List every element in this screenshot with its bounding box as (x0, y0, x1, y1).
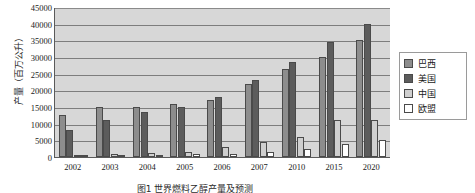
x-axis-tick-label: 2006 (203, 161, 240, 175)
y-axis-tick-label: 5000 (8, 137, 52, 145)
y-axis-tick-labels: 4500040000350003000025000200001500010000… (8, 8, 52, 158)
bar-group (167, 8, 204, 157)
bar (342, 144, 349, 157)
bar (148, 153, 155, 157)
bar-group (278, 8, 315, 157)
x-axis-tick-label: 2002 (54, 161, 91, 175)
bar (379, 140, 386, 157)
legend-label: 巴西 (418, 59, 436, 69)
bar (81, 155, 88, 157)
y-axis-tick-label: 40000 (8, 21, 52, 29)
x-axis-tick-label: 2020 (353, 161, 390, 175)
legend-item: 欧盟 (404, 101, 462, 116)
bar (111, 154, 118, 157)
bar (74, 155, 81, 157)
legend-swatch-icon (404, 104, 413, 113)
plot-area (54, 8, 390, 158)
x-axis-tick-label: 2005 (166, 161, 203, 175)
bar (364, 24, 371, 157)
bar-chart-figure: 产量（百万公升） 4500040000350003000025000200001… (0, 0, 475, 193)
legend-swatch-icon (404, 74, 413, 83)
bar (156, 155, 163, 157)
y-axis-tick-label: 20000 (8, 87, 52, 95)
bar (96, 107, 103, 157)
bar (267, 152, 274, 157)
bar (222, 147, 229, 157)
legend-swatch-icon (404, 89, 413, 98)
legend-swatch-icon (404, 59, 413, 68)
y-axis-tick-label: 30000 (8, 54, 52, 62)
y-axis-tick-label: 25000 (8, 71, 52, 79)
legend-label: 欧盟 (418, 104, 436, 114)
bar (66, 130, 73, 157)
bar (319, 57, 326, 157)
x-axis-tick-label: 2004 (129, 161, 166, 175)
chart-legend: 巴西美国中国欧盟 (399, 52, 467, 120)
bar (215, 97, 222, 157)
y-axis-tick-label: 0 (8, 154, 52, 162)
x-axis-tick-labels: 200220032004200520062007201020152020 (54, 161, 390, 175)
bar (141, 112, 148, 157)
bar (327, 42, 334, 157)
bar (230, 154, 237, 157)
bar-group (316, 8, 353, 157)
bar-group (353, 8, 390, 157)
bar (178, 107, 185, 157)
bar-group (204, 8, 241, 157)
x-axis-tick-label: 2003 (91, 161, 128, 175)
y-axis-tick-label: 35000 (8, 37, 52, 45)
bar (282, 69, 289, 157)
bar (289, 62, 296, 157)
legend-item: 美国 (404, 71, 462, 86)
bar-group (241, 8, 278, 157)
bar (245, 84, 252, 157)
legend-label: 美国 (418, 74, 436, 84)
bar (252, 80, 259, 157)
bar (334, 120, 341, 157)
x-axis-tick-label: 2015 (315, 161, 352, 175)
bar (118, 155, 125, 157)
bar-group (55, 8, 92, 157)
bar (260, 142, 267, 157)
legend-item: 巴西 (404, 56, 462, 71)
bar-group (92, 8, 129, 157)
bar (185, 152, 192, 157)
bar (133, 107, 140, 157)
bar (193, 154, 200, 157)
legend-item: 中国 (404, 86, 462, 101)
bar (371, 120, 378, 157)
bar-group (129, 8, 166, 157)
y-axis-tick-label: 15000 (8, 104, 52, 112)
y-axis-tick-label: 10000 (8, 121, 52, 129)
bar (103, 120, 110, 157)
bar (297, 137, 304, 157)
bar (207, 100, 214, 157)
bar (356, 40, 363, 157)
bar (59, 115, 66, 157)
figure-caption: 图1 世界燃料乙醇产量及预测 (0, 184, 390, 193)
y-axis-tick-label: 45000 (8, 4, 52, 12)
x-axis-tick-label: 2007 (241, 161, 278, 175)
legend-label: 中国 (418, 89, 436, 99)
bar (304, 149, 311, 157)
bar-groups (55, 8, 390, 157)
bar (170, 104, 177, 157)
x-axis-tick-label: 2010 (278, 161, 315, 175)
